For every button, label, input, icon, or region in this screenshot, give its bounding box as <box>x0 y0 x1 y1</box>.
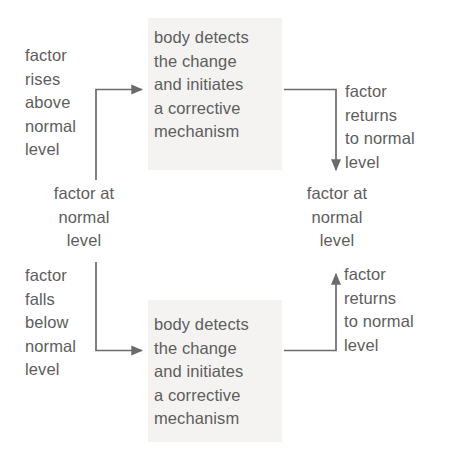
node-factor-rises-above-normal-level: factor rises above normal level <box>25 44 135 162</box>
node-body-detects-corrective-mechanism-bottom: body detects the change and initiates a … <box>154 313 284 431</box>
node-factor-returns-to-normal-level-bottom: factor returns to normal level <box>344 263 450 357</box>
diagram-canvas: factor rises above normal level factor a… <box>0 0 454 455</box>
node-body-detects-corrective-mechanism-top: body detects the change and initiates a … <box>154 26 284 144</box>
node-factor-returns-to-normal-level-top: factor returns to normal level <box>345 80 451 174</box>
node-factor-at-normal-level-left: factor at normal level <box>28 182 140 253</box>
node-factor-falls-below-normal-level: factor falls below normal level <box>25 264 135 382</box>
node-factor-at-normal-level-right: factor at normal level <box>283 182 391 253</box>
connector-detect-to-normal-bottom <box>284 274 336 351</box>
connector-detect-to-normal-top <box>284 90 336 171</box>
